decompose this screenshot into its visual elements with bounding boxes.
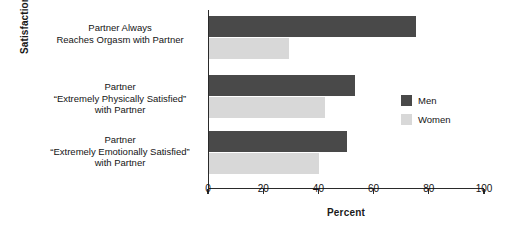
legend-item-men: Men: [401, 92, 501, 108]
category-label-1: Partner “Extremely Physically Satisfied”…: [36, 81, 204, 116]
category-label-2-line-1: “Extremely Emotionally Satisfied”: [36, 146, 204, 158]
bar-men-0: [209, 16, 416, 37]
category-label-0-line-0: Partner Always: [36, 22, 204, 34]
category-label-2-line-0: Partner: [36, 134, 204, 146]
bar-women-2: [209, 153, 319, 174]
x-axis-title: Percent: [208, 207, 484, 218]
x-tick-label-40: 40: [298, 183, 338, 194]
x-tick-label-60: 60: [354, 183, 394, 194]
category-label-2-line-2: with Partner: [36, 157, 204, 169]
category-label-2: Partner “Extremely Emotionally Satisfied…: [36, 134, 204, 169]
legend-swatch-men-icon: [401, 95, 412, 106]
category-label-1-line-2: with Partner: [36, 104, 204, 116]
legend-label-women: Women: [418, 114, 451, 125]
x-tick-label-20: 20: [243, 183, 283, 194]
bar-women-0: [209, 38, 289, 59]
bar-chart-figure: Satisfaction Partner Always Reaches Orga…: [0, 0, 520, 237]
category-label-1-line-0: Partner: [36, 81, 204, 93]
chart-legend: Men Women: [401, 92, 501, 130]
category-label-0-line-1: Reaches Orgasm with Partner: [36, 34, 204, 46]
x-tick-label-100: 100: [464, 183, 504, 194]
x-tick-label-80: 80: [409, 183, 449, 194]
bar-women-1: [209, 97, 325, 118]
bar-men-1: [209, 75, 355, 96]
legend-label-men: Men: [418, 95, 436, 106]
category-labels: Partner Always Reaches Orgasm with Partn…: [32, 0, 204, 190]
x-tick-label-0: 0: [188, 183, 228, 194]
legend-swatch-women-icon: [401, 114, 412, 125]
category-label-1-line-1: “Extremely Physically Satisfied”: [36, 93, 204, 105]
category-label-0: Partner Always Reaches Orgasm with Partn…: [36, 22, 204, 45]
bar-men-2: [209, 131, 347, 152]
legend-item-women: Women: [401, 111, 501, 127]
